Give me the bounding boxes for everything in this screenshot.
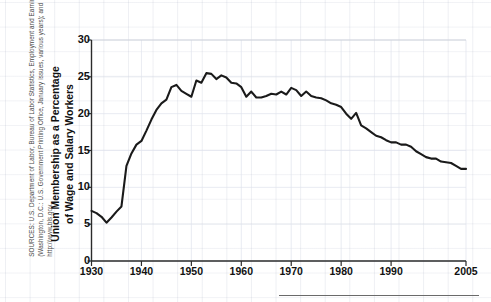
plot-area: 051015202530 193019401950196019701980199…	[0, 0, 491, 302]
y-tick-label: 15	[64, 144, 90, 156]
y-tick-label: 30	[64, 33, 90, 45]
x-tick-label: 1980	[316, 265, 366, 277]
x-tick-label: 1930	[67, 265, 117, 277]
x-tick-label: 1990	[366, 265, 416, 277]
y-tick-label: 5	[64, 217, 90, 229]
data-line-0	[92, 73, 467, 223]
figure-container: SOURCES: U.S. Department of Labor, Burea…	[0, 0, 491, 302]
y-tick-label: 20	[64, 107, 90, 119]
x-tick-label: 1950	[166, 265, 216, 277]
chart-gridlines	[92, 40, 467, 261]
x-tick-label: 1960	[216, 265, 266, 277]
x-tick-label: 1940	[116, 265, 166, 277]
x-tick-label: 1970	[266, 265, 316, 277]
page-bottom-rule	[279, 295, 479, 296]
y-tick-label: 25	[64, 70, 90, 82]
y-tick-label: 10	[64, 180, 90, 192]
x-tick-label: 2005	[441, 265, 491, 277]
y-tick-label-group: 051015202530	[64, 0, 90, 302]
